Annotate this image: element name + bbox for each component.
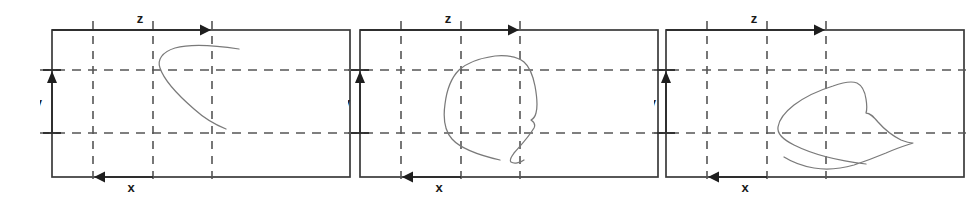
panel-frame — [360, 30, 658, 177]
hook-trace — [159, 45, 239, 129]
plot-panel-3: zyx — [654, 0, 970, 200]
arrow-left-icon — [708, 172, 719, 183]
y-axis-label: y — [654, 95, 657, 110]
arrow-up-icon — [355, 71, 365, 83]
tilted-blob-trace — [778, 82, 913, 169]
plot-panel-1: zyx — [40, 0, 360, 200]
z-axis-label: z — [751, 11, 758, 26]
y-axis-label: y — [40, 95, 43, 110]
x-axis-label: x — [741, 180, 749, 195]
z-axis-label: z — [137, 11, 144, 26]
z-axis-label: z — [445, 11, 452, 26]
arrow-right-icon — [814, 25, 825, 36]
x-axis-label: x — [435, 180, 443, 195]
x-axis-label: x — [127, 180, 135, 195]
arrow-up-icon — [661, 71, 671, 83]
panel-frame — [52, 30, 350, 177]
arrow-up-icon — [47, 71, 57, 83]
loop-trace — [444, 56, 537, 163]
arrow-left-icon — [402, 172, 413, 183]
arrow-right-icon — [508, 25, 519, 36]
panel-frame — [666, 30, 964, 177]
plot-panel-2: zyx — [348, 0, 668, 200]
arrow-right-icon — [200, 25, 211, 36]
arrow-left-icon — [94, 172, 105, 183]
y-axis-label: y — [348, 95, 351, 110]
